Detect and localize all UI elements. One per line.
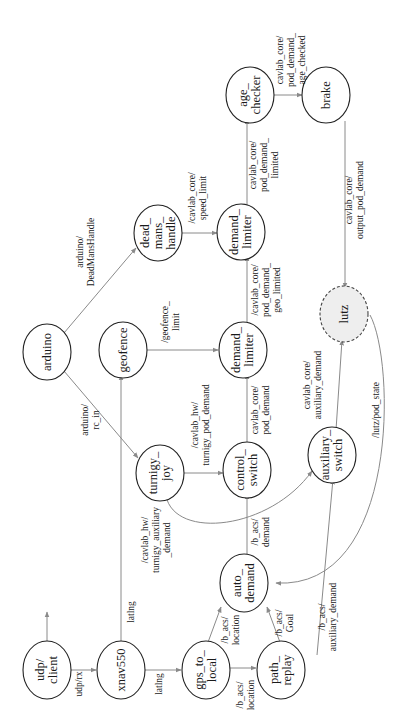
- svg-text:demand_limiter: demand_limiter: [227, 208, 254, 255]
- node-demand-limiter-speed[interactable]: demand_limiter: [217, 204, 265, 260]
- edge-rc-in: [64, 371, 138, 458]
- label-turnigy-aux: /cavlab_hw/turnigy_auxiliary_demand: [140, 507, 172, 573]
- label-age-checked: cavlab_core/pod_demand_age_checked: [275, 33, 307, 87]
- node-age-checker[interactable]: age_checker: [226, 67, 274, 123]
- svg-text:demand_limiter: demand_limiter: [229, 326, 256, 373]
- svg-text:lutz: lutz: [337, 304, 351, 323]
- node-dead-mans-handle[interactable]: dead_mans_handle: [134, 205, 182, 261]
- svg-text:dead_mans_handle: dead_mans_handle: [138, 216, 178, 250]
- label-aux-demand: /b_acs/auxiliary_demand: [317, 582, 338, 651]
- svg-text:xnav550: xnav550: [114, 648, 128, 691]
- label-location-path: /b_acs/location: [235, 679, 256, 710]
- svg-text:arduino: arduino: [40, 333, 54, 371]
- node-auto-demand[interactable]: auto_demand: [220, 554, 268, 612]
- node-brake[interactable]: brake: [302, 67, 350, 123]
- node-demand-limiter-geo[interactable]: demand_limiter: [219, 322, 267, 378]
- label-demand: /b_acs/demand: [250, 517, 271, 547]
- svg-text:path_replay: path_replay: [267, 654, 294, 686]
- label-geo-limited: /cavlab_core/pod_demand_geo_limited: [250, 263, 282, 317]
- label-pod-state: /lutz/pod_state: [371, 382, 381, 438]
- ros-node-graph: udp/client xnav550 gps_to_local path_rep…: [0, 0, 401, 726]
- label-aux-core: cavlab_core/auxiliary_demand: [302, 350, 323, 419]
- svg-text:udp/client: udp/client: [33, 656, 60, 684]
- label-deadmans: arduino/DeadMansHandle: [75, 218, 96, 287]
- label-latlng-geofence: latlng: [126, 601, 136, 623]
- label-turnigy-pod: /cavlab_hw/turnigy_pod_demand: [190, 384, 211, 466]
- label-udp-rx: udp/rx: [74, 671, 84, 696]
- svg-text:brake: brake: [319, 81, 333, 109]
- edge-location-auto: [207, 607, 221, 645]
- node-gps-to-local[interactable]: gps_to_local: [182, 641, 230, 699]
- node-xnav550[interactable]: xnav550: [97, 641, 145, 699]
- node-geofence[interactable]: geofence: [99, 322, 147, 378]
- node-udp-client[interactable]: udp/client: [23, 641, 71, 699]
- label-geofence-limit: /geofence_limit: [160, 301, 181, 343]
- label-rc-in: arduino/rc_in: [80, 404, 101, 436]
- node-arduino[interactable]: arduino: [23, 324, 71, 380]
- svg-text:control_switch: control_switch: [233, 448, 260, 490]
- edge-aux-core: [336, 340, 342, 430]
- label-output: cavlab_core/output_pod_demand: [344, 161, 365, 239]
- label-pod-demand: cavlab_core/pod_demand: [250, 385, 271, 434]
- node-auxiliary-switch[interactable]: auxiliary_switch: [308, 427, 356, 483]
- node-turnigy-joy[interactable]: turnigy_joy: [136, 445, 184, 501]
- label-goal: /b_acs/Goal: [274, 609, 295, 636]
- label-location-auto: /b_acs/location: [220, 614, 241, 645]
- node-path-replay[interactable]: path_replay: [257, 641, 305, 699]
- label-limited: cavlab_core/pod_demand_limited: [248, 138, 280, 192]
- svg-text:geofence: geofence: [116, 327, 130, 373]
- node-control-switch[interactable]: control_switch: [223, 442, 271, 498]
- label-latlng-gps: latlng: [154, 673, 164, 695]
- label-speed-limit: /cavlab_core/speed_limit: [187, 172, 208, 224]
- node-lutz[interactable]: lutz: [320, 286, 368, 342]
